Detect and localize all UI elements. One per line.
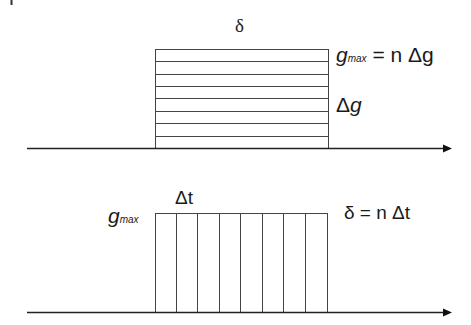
top-time-axis	[27, 145, 452, 153]
top-delta-label: δ	[235, 16, 244, 35]
bottom-time-axis	[27, 309, 452, 317]
gmax-symbol: g	[108, 204, 120, 227]
bottom-pulse-rect	[156, 214, 328, 313]
bottom-panel-graphic	[156, 214, 328, 313]
top-panel-graphic	[156, 50, 329, 149]
arrow-right-icon	[443, 309, 452, 317]
gmax-symbol: g	[336, 43, 348, 66]
gmax-subscript: max	[120, 214, 139, 225]
arrow-right-icon	[443, 145, 452, 153]
top-horizontal-strips	[156, 62, 329, 137]
bottom-delta-t-label: Δt	[175, 188, 193, 207]
top-delta-g-label: Δg	[336, 94, 362, 115]
delta-symbol: Δ	[336, 93, 350, 116]
bottom-vertical-strips	[177, 214, 306, 313]
top-gmax-equation: gmax = n Δg	[336, 44, 434, 65]
bottom-gmax-label: gmax	[108, 205, 139, 226]
bottom-delta-equation: δ = n Δt	[344, 203, 410, 222]
g-symbol: g	[350, 93, 362, 116]
gmax-subscript: max	[348, 53, 367, 64]
gmax-equation-rhs: = n Δg	[372, 43, 433, 66]
